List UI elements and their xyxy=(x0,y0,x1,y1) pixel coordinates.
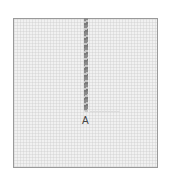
point-label-a: A xyxy=(82,115,89,126)
stitch-guide-line xyxy=(90,111,120,112)
thread-strand xyxy=(84,18,88,112)
